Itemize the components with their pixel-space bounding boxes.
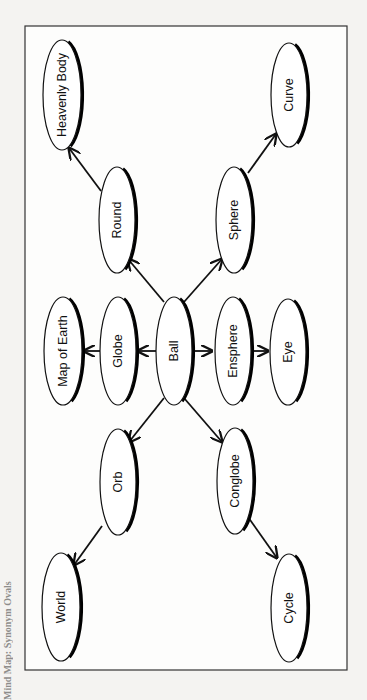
node-curve: Curve (271, 43, 309, 147)
node-eye: Eye (270, 299, 308, 405)
node-round: Round (99, 167, 137, 273)
node-label: Ensphere (226, 324, 240, 378)
node-map-of-earth: Map of Earth (44, 297, 83, 405)
node-ensphere: Ensphere (215, 297, 253, 405)
node-label: Orb (111, 472, 125, 493)
node-sphere: Sphere (216, 167, 254, 273)
node-orb: Orb (100, 429, 138, 535)
node-label: Cycle (282, 592, 296, 623)
node-globe: Globe (100, 297, 138, 405)
node-label: Sphere (227, 200, 241, 240)
node-ball: Ball (156, 297, 193, 405)
node-label: Ball (167, 341, 181, 362)
node-label: Heavenly Body (55, 52, 69, 137)
node-heavenly-body: Heavenly Body (43, 40, 83, 150)
node-label: Eye (281, 341, 295, 363)
node-world: World (42, 553, 82, 661)
node-label: Conglobe (228, 454, 242, 508)
node-label: Globe (111, 334, 125, 367)
node-label: Map of Earth (56, 315, 70, 387)
node-label: Curve (282, 78, 296, 111)
node-label: Round (110, 202, 124, 239)
node-conglobe: Conglobe (217, 428, 254, 534)
node-label: World (54, 591, 68, 623)
node-cycle: Cycle (271, 554, 309, 662)
